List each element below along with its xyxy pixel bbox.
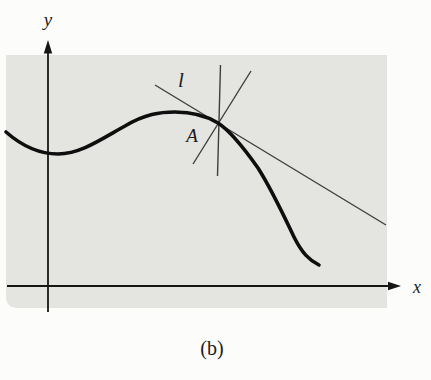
y-axis-label: y bbox=[44, 10, 52, 29]
figure-b-diagram: y x l A (b) bbox=[0, 0, 431, 380]
tangent-line bbox=[155, 85, 386, 225]
x-axis-arrowhead-icon bbox=[388, 282, 401, 290]
y-axis-arrowhead-icon bbox=[44, 40, 52, 54]
tangent-line-label: l bbox=[178, 70, 184, 91]
figure-caption: (b) bbox=[200, 337, 223, 360]
x-axis-label: x bbox=[413, 278, 421, 296]
diagram-canvas bbox=[0, 0, 431, 380]
function-curve bbox=[6, 112, 319, 265]
point-a-label: A bbox=[186, 126, 198, 145]
